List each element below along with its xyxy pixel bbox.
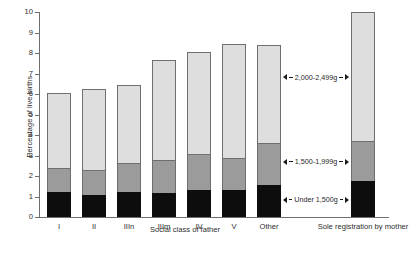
y-axis-tick-label: 0 <box>29 213 33 221</box>
bar-segment-1-500-1-999g <box>117 163 141 193</box>
bar-segment-1-500-1-999g <box>187 154 211 190</box>
annotation-rule <box>289 77 293 78</box>
y-axis-tick <box>35 94 39 95</box>
y-axis-line <box>39 12 40 218</box>
bar-segment-2-000-2-499g <box>152 60 176 159</box>
annotation-2-000-2-499g: 2,000-2,499g <box>283 73 349 82</box>
plot-area: 012345678910 IIIIIInIIImIVVOtherSole reg… <box>39 12 389 218</box>
bar-iiim <box>152 60 176 217</box>
bar-segment-under-1-500g <box>351 181 375 217</box>
y-axis-tick-label: 6 <box>29 90 33 98</box>
y-axis-tick-label: 5 <box>29 111 33 119</box>
y-axis-tick-label: 3 <box>29 152 33 160</box>
y-axis-tick <box>35 115 39 116</box>
bar-sole-registration-by-mother <box>351 12 375 217</box>
bar-segment-under-1-500g <box>152 193 176 217</box>
y-axis-tick <box>35 176 39 177</box>
bar-segment-2-000-2-499g <box>222 44 246 158</box>
bar-v <box>222 44 246 217</box>
bar-segment-under-1-500g <box>47 192 71 217</box>
y-axis-tick <box>35 197 39 198</box>
bar-other <box>257 45 281 217</box>
bar-segment-1-500-1-999g <box>47 168 71 193</box>
arrow-right-icon <box>345 159 349 165</box>
bar-i <box>47 93 71 217</box>
annotation-label: Under 1,500g <box>294 195 338 204</box>
annotation-rule <box>289 199 292 200</box>
y-axis-tick-label: 4 <box>29 131 33 139</box>
y-axis-tick <box>35 53 39 54</box>
bar-segment-1-500-1-999g <box>152 160 176 194</box>
bar-segment-1-500-1-999g <box>222 158 246 191</box>
bar-segment-1-500-1-999g <box>351 141 375 181</box>
bar-iv <box>187 52 211 217</box>
bar-segment-1-500-1-999g <box>82 170 106 196</box>
bar-iiin <box>117 85 141 217</box>
x-axis-tick-label: Sole registration by mother <box>315 222 411 232</box>
annotation-rule <box>339 161 343 162</box>
bar-segment-under-1-500g <box>187 190 211 217</box>
y-axis-tick-label: 7 <box>29 70 33 78</box>
bar-segment-under-1-500g <box>222 190 246 217</box>
bar-segment-2-000-2-499g <box>117 85 141 163</box>
bar-segment-2-000-2-499g <box>187 52 211 155</box>
y-axis-tick-label: 1 <box>29 193 33 201</box>
bar-segment-2-000-2-499g <box>82 89 106 170</box>
bar-segment-under-1-500g <box>257 185 281 217</box>
y-axis-tick <box>35 217 39 218</box>
bar-segment-2-000-2-499g <box>257 45 281 143</box>
bar-segment-1-500-1-999g <box>257 143 281 185</box>
annotation-1-500-1-999g: 1,500-1,999g <box>283 157 349 166</box>
bar-ii <box>82 89 106 217</box>
y-axis-tick <box>35 156 39 157</box>
x-axis-tick-label: I <box>58 222 60 231</box>
arrow-left-icon <box>283 74 287 80</box>
y-axis-tick-label: 10 <box>25 8 33 16</box>
arrow-left-icon <box>283 159 287 165</box>
annotation-rule <box>340 199 343 200</box>
y-axis-tick <box>35 33 39 34</box>
annotation-label: 2,000-2,499g <box>295 73 337 82</box>
y-axis-tick <box>35 12 39 13</box>
bar-segment-under-1-500g <box>117 192 141 217</box>
y-axis-tick-label: 8 <box>29 49 33 57</box>
bar-segment-under-1-500g <box>82 195 106 217</box>
y-axis-tick-label: 9 <box>29 29 33 37</box>
y-axis-tick-label: 2 <box>29 172 33 180</box>
annotation-rule <box>289 161 293 162</box>
annotation-rule <box>339 77 343 78</box>
x-axis-line <box>39 217 389 218</box>
annotation-label: 1,500-1,999g <box>295 157 337 166</box>
y-axis-tick <box>35 135 39 136</box>
annotation-under-1-500g: Under 1,500g <box>283 195 349 204</box>
bar-segment-2-000-2-499g <box>47 93 71 168</box>
arrow-right-icon <box>345 197 349 203</box>
x-axis-tick-label: II <box>92 222 96 231</box>
y-axis-tick <box>35 74 39 75</box>
arrow-right-icon <box>345 74 349 80</box>
bar-segment-2-000-2-499g <box>351 12 375 141</box>
x-axis-title: Social class of father <box>105 225 265 234</box>
arrow-left-icon <box>283 197 287 203</box>
